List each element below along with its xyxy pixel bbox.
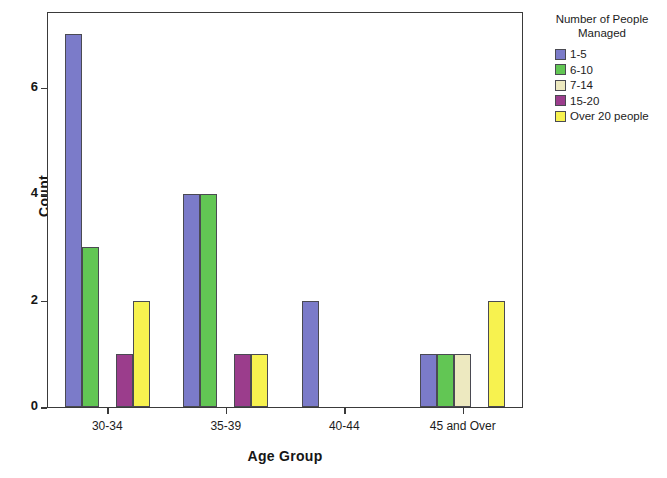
y-tick-label: 2 — [31, 292, 38, 307]
bar — [251, 354, 268, 407]
bar — [200, 194, 217, 407]
bar — [116, 354, 133, 407]
legend-item: 1-5 — [555, 47, 667, 61]
bar — [302, 301, 319, 407]
y-tick-label: 0 — [31, 398, 38, 413]
legend-item-label: 15-20 — [570, 95, 599, 107]
legend-swatch-icon — [555, 80, 566, 91]
x-tick-line — [226, 408, 228, 414]
bar — [82, 247, 99, 407]
legend-item-label: Over 20 people — [570, 110, 649, 122]
y-tick-line — [41, 301, 47, 303]
legend-item: Over 20 people — [555, 109, 667, 123]
x-tick-line — [344, 408, 346, 414]
bar — [488, 301, 505, 407]
legend-title-line-1: Number of People — [541, 12, 663, 26]
legend-swatch-icon — [555, 95, 566, 106]
y-axis-tick: 6 — [0, 88, 47, 89]
y-tick-line — [41, 88, 47, 90]
legend-swatch-icon — [555, 64, 566, 75]
x-tick-line — [107, 408, 109, 414]
legend-item: 6-10 — [555, 63, 667, 77]
x-tick-line — [463, 408, 465, 414]
bar-chart: Count 0246 Age Group Number of People Ma… — [0, 0, 667, 478]
legend-item: 7-14 — [555, 78, 667, 92]
x-category-label: 35-39 — [210, 419, 241, 433]
legend-swatch-icon — [555, 49, 566, 60]
y-tick-label: 6 — [31, 79, 38, 94]
y-tick-line — [41, 407, 47, 409]
bar — [133, 301, 150, 407]
x-category-label: 45 and Over — [430, 419, 496, 433]
bar — [454, 354, 471, 407]
y-tick-line — [41, 194, 47, 196]
bar — [65, 34, 82, 407]
bar — [420, 354, 437, 407]
bar — [183, 194, 200, 407]
legend-title: Number of People Managed — [541, 12, 663, 40]
legend: Number of People Managed 1-56-107-1415-2… — [541, 12, 667, 125]
x-category-label: 40-44 — [329, 419, 360, 433]
plot-area — [48, 13, 522, 407]
legend-item-label: 1-5 — [570, 48, 587, 60]
y-tick-label: 4 — [31, 185, 38, 200]
legend-item-label: 6-10 — [570, 64, 593, 76]
legend-item-list: 1-56-107-1415-20Over 20 people — [555, 47, 667, 123]
bar — [234, 354, 251, 407]
legend-item-label: 7-14 — [570, 79, 593, 91]
y-axis-tick: 2 — [0, 301, 47, 302]
y-axis-tick: 4 — [0, 194, 47, 195]
legend-title-line-2: Managed — [541, 26, 663, 40]
legend-item: 15-20 — [555, 94, 667, 108]
x-category-label: 30-34 — [92, 419, 123, 433]
legend-swatch-icon — [555, 111, 566, 122]
y-axis-tick: 0 — [0, 407, 47, 408]
x-axis-title: Age Group — [47, 448, 523, 464]
bar — [437, 354, 454, 407]
